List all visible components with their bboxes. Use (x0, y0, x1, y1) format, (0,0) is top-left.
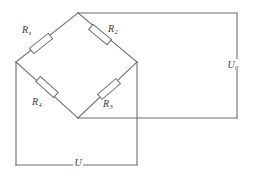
resistor-label-r3: R3 (103, 99, 112, 109)
resistor-label-r4: R4 (32, 97, 41, 107)
resistor-rx-subscript: x (28, 29, 31, 36)
circuit-diagram-canvas: Rx R2 R4 R3 U0 U (0, 0, 256, 181)
resistor-label-r2: R2 (108, 24, 117, 34)
source-label-u: U (73, 158, 83, 168)
source-u0-wrapper: U0 (226, 59, 239, 70)
source-u-wrapper: U (73, 157, 83, 168)
resistor-rx-body (29, 33, 52, 53)
source-u0-symbol: U (228, 59, 235, 70)
source-u0-subscript: 0 (235, 64, 238, 71)
source-label-u0: U0 (226, 60, 239, 70)
resistor-r3-body (98, 79, 121, 100)
resistor-label-rx: Rx (22, 25, 31, 35)
source-u-symbol: U (75, 157, 82, 168)
resistor-r3-subscript: 3 (109, 103, 112, 110)
resistor-r2-subscript: 2 (114, 28, 117, 35)
resistor-r4-subscript: 4 (38, 101, 41, 108)
resistor-r4-body (36, 76, 58, 97)
circuit-schematic (0, 0, 256, 181)
